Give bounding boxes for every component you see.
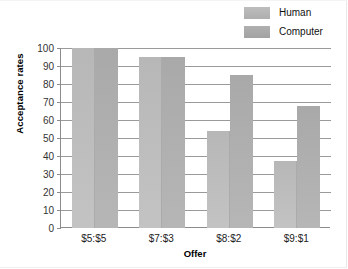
x-axis-tick-label: $5:$5 (60, 233, 128, 244)
y-axis-tick-label: 50 (43, 133, 54, 144)
y-axis-tick-label: 10 (43, 205, 54, 216)
bar-series-container (61, 48, 331, 228)
y-axis-tick-label: 30 (43, 169, 54, 180)
legend-swatch-human (244, 7, 270, 19)
chart-figure: Human Computer Acceptance rates Offer 01… (0, 0, 348, 269)
bar-group (139, 48, 185, 228)
y-axis-tick-label: 90 (43, 61, 54, 72)
bar-group (72, 48, 118, 228)
x-axis-tick-label: $9:$1 (263, 233, 331, 244)
legend-swatch-computer (244, 26, 270, 38)
y-axis-tick-mark (57, 228, 61, 229)
legend-item-human: Human (244, 5, 344, 20)
bar-computer-91 (297, 106, 320, 228)
x-axis-title: Offer (60, 248, 330, 259)
plot-area: 0102030405060708090100 (60, 48, 330, 228)
x-axis-tick-label: $8:$2 (195, 233, 263, 244)
y-axis-tick-label: 40 (43, 151, 54, 162)
y-axis-title: Acceptance rates (14, 39, 25, 149)
bar-human-73 (139, 57, 162, 228)
legend-label-computer: Computer (279, 26, 323, 38)
y-axis-tick-label: 20 (43, 187, 54, 198)
y-axis-tick-label: 70 (43, 97, 54, 108)
bar-computer-55 (95, 48, 118, 228)
chart-legend: Human Computer (244, 5, 344, 43)
bar-computer-82 (230, 75, 253, 228)
bar-human-55 (72, 48, 95, 228)
bar-group (274, 48, 320, 228)
legend-item-computer: Computer (244, 24, 344, 39)
bar-computer-73 (162, 57, 185, 228)
y-axis-tick-label: 100 (37, 43, 54, 54)
y-axis-tick-label: 60 (43, 115, 54, 126)
legend-label-human: Human (279, 7, 311, 19)
bar-human-82 (207, 131, 230, 228)
y-axis-tick-label: 0 (48, 223, 54, 234)
bar-human-91 (274, 161, 297, 229)
bar-group (207, 48, 253, 228)
y-axis-tick-label: 80 (43, 79, 54, 90)
x-axis-tick-label: $7:$3 (128, 233, 196, 244)
